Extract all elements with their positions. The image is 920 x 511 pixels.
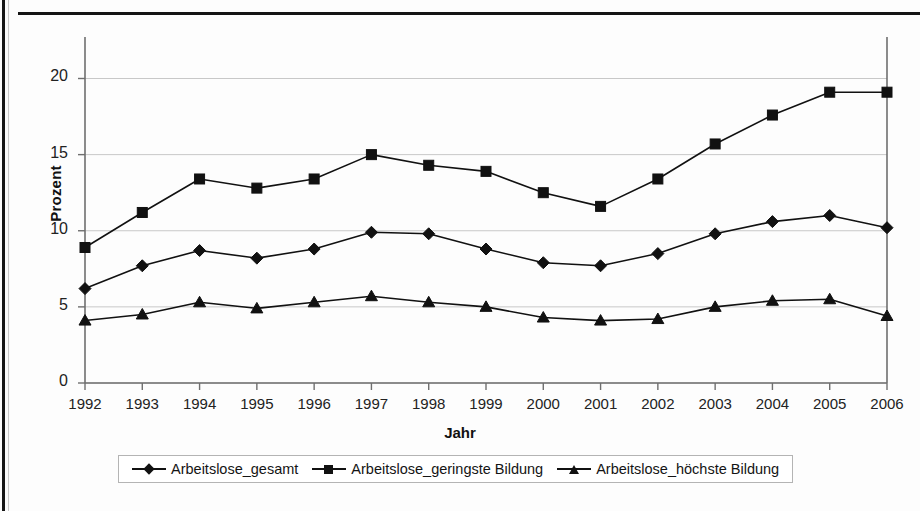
legend-diamond-icon	[132, 462, 166, 476]
legend-marker-square	[324, 465, 333, 474]
y-tick-label: 20	[28, 67, 68, 85]
x-tick-label: 1994	[170, 395, 230, 412]
y-tick-label: 0	[28, 372, 68, 390]
data-point-diamond	[365, 226, 377, 238]
data-point-square	[882, 87, 892, 97]
x-tick-label: 1992	[55, 395, 115, 412]
x-tick-label: 2004	[742, 395, 802, 412]
data-point-triangle	[194, 296, 206, 307]
legend-entry: Arbeitslose_geringste Bildung	[312, 461, 543, 477]
data-point-square	[309, 174, 319, 184]
data-point-diamond	[709, 228, 721, 240]
legend-triangle-icon	[557, 462, 591, 476]
x-axis-ticks	[85, 383, 887, 390]
axis-lines	[85, 37, 887, 383]
legend-marker-triangle	[569, 465, 579, 474]
x-tick-label: 1998	[399, 395, 459, 412]
data-point-triangle	[365, 290, 377, 301]
data-point-diamond	[595, 260, 607, 272]
data-point-square	[538, 188, 548, 198]
x-tick-label: 2005	[800, 395, 860, 412]
legend-square-icon	[312, 462, 346, 476]
data-point-diamond	[308, 243, 320, 255]
legend-entry: Arbeitslose_höchste Bildung	[557, 461, 779, 477]
gridlines	[85, 78, 887, 383]
data-point-square	[767, 110, 777, 120]
chart-page: 05101520 1992199319941995199619971998199…	[0, 0, 920, 511]
x-axis-title: Jahr	[0, 424, 920, 441]
series-1	[79, 210, 893, 295]
data-point-diamond	[881, 222, 893, 234]
x-tick-label: 1999	[456, 395, 516, 412]
data-point-square	[252, 183, 262, 193]
y-tick-label: 5	[28, 296, 68, 314]
legend-label: Arbeitslose_geringste Bildung	[351, 461, 543, 477]
x-tick-label: 1996	[284, 395, 344, 412]
chart-legend: Arbeitslose_gesamtArbeitslose_geringste …	[118, 455, 793, 483]
data-point-diamond	[194, 245, 206, 257]
x-tick-label: 2002	[628, 395, 688, 412]
data-point-square	[825, 87, 835, 97]
data-point-diamond	[480, 243, 492, 255]
data-point-square	[366, 150, 376, 160]
series-2	[80, 87, 892, 252]
legend-entry: Arbeitslose_gesamt	[132, 461, 298, 477]
data-point-square	[481, 166, 491, 176]
data-point-diamond	[824, 210, 836, 222]
data-point-diamond	[766, 216, 778, 228]
legend-label: Arbeitslose_gesamt	[171, 461, 298, 477]
x-tick-label: 2003	[685, 395, 745, 412]
data-point-square	[195, 174, 205, 184]
data-point-diamond	[136, 260, 148, 272]
data-point-square	[710, 139, 720, 149]
data-point-diamond	[251, 252, 263, 264]
data-point-diamond	[537, 257, 549, 269]
data-point-square	[137, 207, 147, 217]
data-point-diamond	[423, 228, 435, 240]
x-tick-label: 2001	[571, 395, 631, 412]
legend-marker-diamond	[143, 463, 154, 474]
data-point-square	[653, 174, 663, 184]
x-tick-label: 2006	[857, 395, 917, 412]
x-tick-label: 1997	[341, 395, 401, 412]
series-layer	[79, 87, 893, 325]
data-point-square	[80, 242, 90, 252]
data-point-triangle	[824, 293, 836, 304]
x-tick-label: 1995	[227, 395, 287, 412]
line-chart: 05101520 1992199319941995199619971998199…	[0, 0, 920, 511]
data-point-diamond	[652, 248, 664, 260]
data-point-diamond	[79, 283, 91, 295]
x-tick-label: 2000	[513, 395, 573, 412]
y-axis-title: Prozent	[47, 134, 64, 254]
series-3	[79, 290, 893, 325]
x-tick-label: 1993	[112, 395, 172, 412]
data-point-square	[424, 160, 434, 170]
legend-label: Arbeitslose_höchste Bildung	[596, 461, 779, 477]
data-point-square	[596, 201, 606, 211]
y-axis-ticks	[78, 78, 85, 383]
